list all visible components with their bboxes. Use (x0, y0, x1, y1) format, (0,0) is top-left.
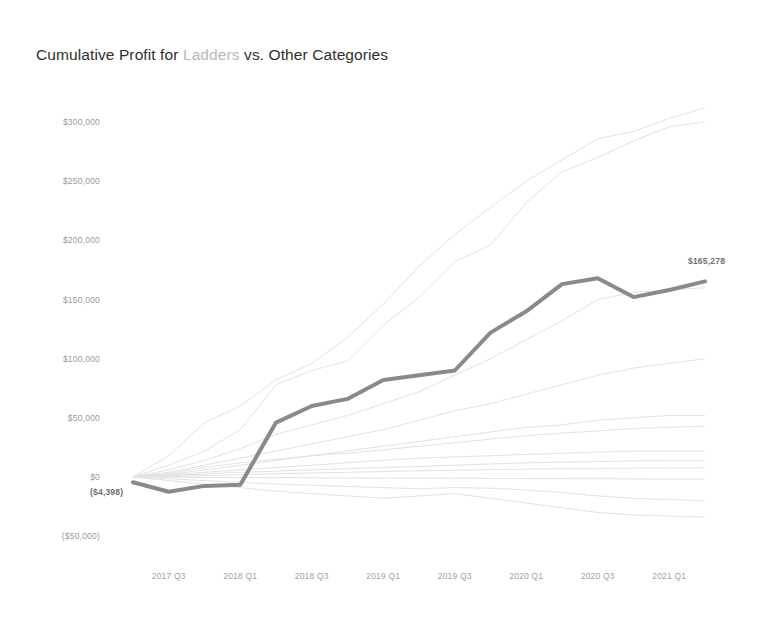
x-axis-tick-label: 2019 Q1 (366, 571, 400, 581)
x-axis-tick-label: 2020 Q1 (509, 571, 543, 581)
x-axis-tick-label: 2019 Q3 (438, 571, 472, 581)
x-axis-tick-label: 2018 Q1 (223, 571, 257, 581)
other-category-line (133, 122, 705, 477)
other-category-line (133, 468, 705, 477)
ladders-highlight-line[interactable] (133, 278, 705, 492)
other-category-line (133, 477, 705, 479)
start-value-annotation: ($4,398) (90, 487, 123, 497)
x-axis-tick-label: 2020 Q3 (581, 571, 615, 581)
x-axis-tick-label: 2017 Q3 (152, 571, 186, 581)
other-category-line (133, 477, 705, 501)
chart-container: Cumulative Profit for Ladders vs. Other … (0, 0, 767, 632)
x-axis-tick-label: 2018 Q3 (295, 571, 329, 581)
plot-area (0, 0, 767, 632)
other-category-line (133, 288, 705, 477)
other-category-line (133, 108, 705, 477)
x-axis-tick-label: 2021 Q1 (652, 571, 686, 581)
end-value-annotation: $165,278 (688, 256, 725, 266)
